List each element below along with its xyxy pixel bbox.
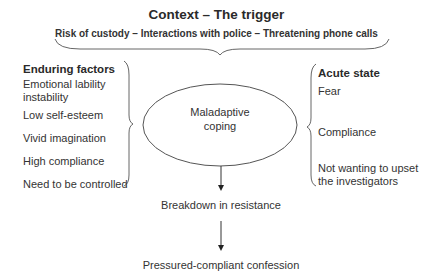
enduring-factor-item: Low self-esteem — [23, 109, 103, 122]
arrow-down-icon — [218, 245, 224, 251]
flow-step-breakdown: Breakdown in resistance — [120, 199, 322, 211]
flow-step-confession: Pressured-compliant confession — [100, 259, 342, 271]
enduring-factor-item: instability — [23, 91, 68, 104]
center-node-line1: Maladaptive — [170, 106, 270, 118]
diagram-title: Context – The trigger — [0, 7, 433, 22]
left-brace — [124, 61, 133, 186]
top-brace — [55, 39, 389, 55]
acute-state-heading: Acute state — [318, 67, 380, 79]
arrow-down-icon — [218, 185, 224, 191]
enduring-factor-item: High compliance — [23, 155, 104, 168]
trigger-list: Risk of custody – Interactions with poli… — [0, 28, 433, 39]
enduring-factor-item: Emotional lability — [23, 78, 106, 91]
acute-state-item: Not wanting to upset — [318, 162, 418, 175]
enduring-factors-heading: Enduring factors — [23, 63, 115, 75]
right-brace — [307, 64, 316, 186]
acute-state-item: Fear — [318, 85, 341, 98]
acute-state-item: the investigators — [318, 175, 398, 188]
enduring-factor-item: Need to be controlled — [23, 178, 128, 191]
acute-state-item: Compliance — [318, 126, 376, 139]
enduring-factor-item: Vivid imagination — [23, 132, 106, 145]
center-node-line2: coping — [170, 120, 270, 132]
